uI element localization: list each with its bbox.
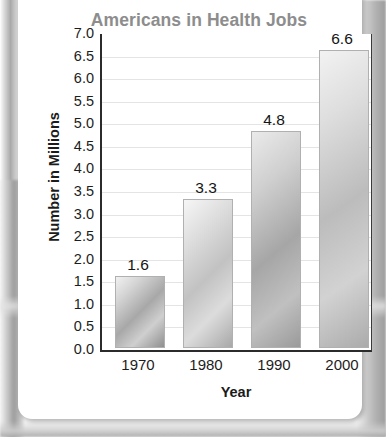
bar-value-label-1980: 3.3 [169,179,243,197]
x-axis-tick-label-1970: 1970 [101,356,175,373]
y-axis-tick-label: 2.0 [48,251,94,267]
y-axis-tick-label: 5.0 [48,115,94,131]
y-axis-tick-label: 5.5 [48,93,94,109]
chart-card: Americans in Health Jobs Number in Milli… [18,0,362,419]
bar-1980 [183,199,233,348]
y-axis-tick-label: 0.0 [48,341,94,357]
y-axis-tick-label: 7.0 [48,25,94,41]
y-axis-tick-label: 2.5 [48,228,94,244]
y-axis-tick-label: 3.5 [48,183,94,199]
bar-value-label-1970: 1.6 [101,256,175,274]
y-axis-tick-label: 4.5 [48,138,94,154]
y-axis-tick-label: 1.0 [48,296,94,312]
y-axis-tick-label: 1.5 [48,273,94,289]
scanned-page: Americans in Health Jobs Number in Milli… [0,0,386,437]
page-bottom-shadow [0,421,386,437]
x-axis-tick-label-1990: 1990 [237,356,311,373]
bar-value-label-1990: 4.8 [237,111,311,129]
y-axis-tick-label: 6.5 [48,48,94,64]
bar-value-label-2000: 6.6 [305,30,379,48]
x-axis-tick-label-1980: 1980 [169,356,243,373]
bar-2000 [319,50,369,348]
bar-1970 [115,276,165,348]
y-axis-tick-label: 3.0 [48,206,94,222]
bar-1990 [251,131,301,348]
y-axis-tick-label: 4.0 [48,160,94,176]
x-axis-title: Year [100,384,372,400]
y-axis-tick-label: 0.5 [48,318,94,334]
y-axis-tick-label: 6.0 [48,70,94,86]
x-axis-tick-label-2000: 2000 [305,356,379,373]
